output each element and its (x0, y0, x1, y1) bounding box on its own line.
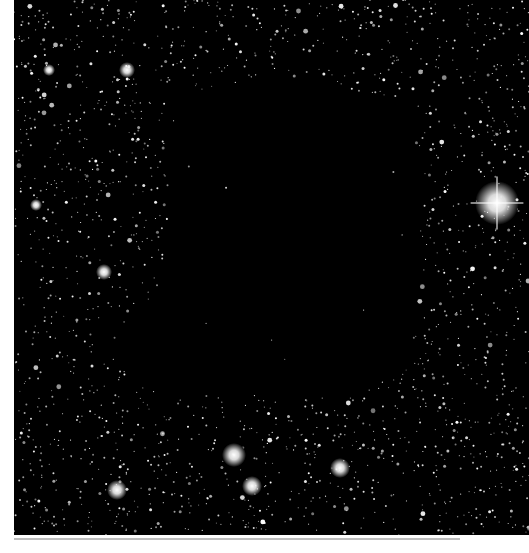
star-field-canvas (14, 0, 529, 535)
star-field-image (14, 0, 529, 535)
bottom-divider (14, 538, 460, 540)
